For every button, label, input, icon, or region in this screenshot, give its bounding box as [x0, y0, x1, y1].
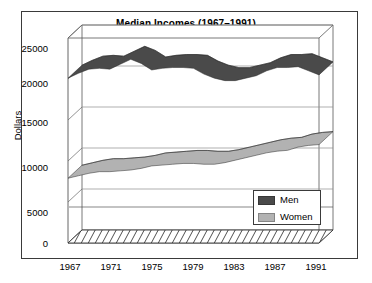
- chart-canvas: Median Incomes (1967–1991) Dollars 25000…: [0, 0, 372, 283]
- legend-item-men: Men: [258, 192, 320, 208]
- plot-floor: [68, 230, 333, 243]
- chart-legend: Men Women: [253, 190, 321, 225]
- legend-label-women: Women: [280, 212, 313, 222]
- legend-label-men: Men: [280, 195, 298, 205]
- legend-item-women: Women: [258, 209, 320, 225]
- legend-swatch-women: [258, 213, 275, 222]
- plot-area: [0, 0, 372, 283]
- y-tick-mark: [68, 148, 82, 161]
- y-tick-mark: [68, 25, 82, 38]
- y-tick-mark: [68, 189, 82, 202]
- legend-swatch-men: [258, 196, 275, 205]
- y-tick-mark: [68, 107, 82, 120]
